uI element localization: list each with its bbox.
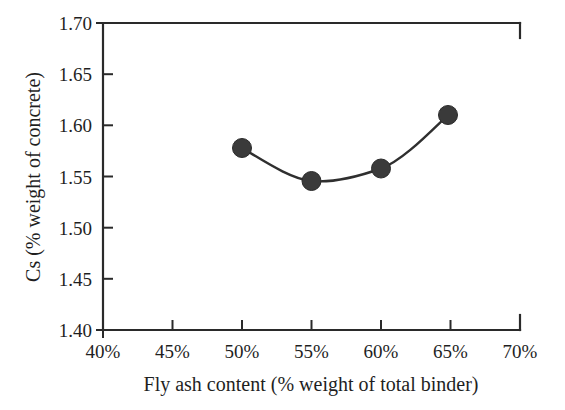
y-tick-label-1-45: 1.45 [59,269,92,290]
x-tick-label-70: 70% [503,341,538,362]
x-tick-label-45: 45% [155,341,190,362]
x-tick-label-65: 65% [433,341,468,362]
y-axis-title: Cs (% weight of concrete) [22,72,45,282]
chart-canvas: 1.40 1.45 1.50 1.55 1.60 1.65 1.70 40% 4… [0,0,565,410]
x-tick-label-50: 50% [225,341,260,362]
y-tick-label-1-50: 1.50 [59,218,92,239]
y-tick-label-1-65: 1.65 [59,64,92,85]
data-point-marker [302,172,321,191]
data-point-marker [372,159,391,178]
x-tick-label-40: 40% [86,341,121,362]
x-tick-label-60: 60% [364,341,399,362]
data-point-marker [233,139,252,158]
data-point-marker [439,106,458,125]
x-axis-title: Fly ash content (% weight of total binde… [144,373,479,396]
y-tick-label-1-70: 1.70 [59,13,92,34]
y-tick-label-1-60: 1.60 [59,115,92,136]
chart-figure: 1.40 1.45 1.50 1.55 1.60 1.65 1.70 40% 4… [0,0,565,410]
x-tick-label-55: 55% [294,341,329,362]
y-tick-label-1-55: 1.55 [59,167,92,188]
y-tick-label-1-40: 1.40 [59,320,92,341]
